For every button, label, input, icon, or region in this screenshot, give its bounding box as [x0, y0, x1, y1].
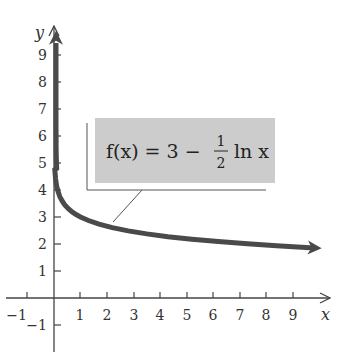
leader-line — [113, 190, 142, 222]
svg-text:8: 8 — [262, 307, 271, 323]
svg-text:−1: −1 — [26, 317, 47, 333]
formula-numerator: 1 — [217, 133, 226, 149]
svg-text:7: 7 — [38, 101, 47, 117]
svg-text:3: 3 — [130, 307, 139, 323]
function-graph: −1 1 2 3 4 5 6 7 8 9 x −1 — [0, 0, 339, 363]
svg-text:−1: −1 — [6, 307, 27, 323]
svg-text:7: 7 — [236, 307, 245, 323]
svg-text:9: 9 — [38, 47, 47, 63]
formula-annotation: f(x) = 3 − 1 2 ln x — [87, 118, 275, 222]
x-tick-labels: −1 1 2 3 4 5 6 7 8 9 — [6, 307, 297, 323]
svg-text:2: 2 — [38, 236, 47, 252]
curve-arrowhead-top — [49, 31, 63, 45]
x-axis-label: x — [321, 305, 330, 324]
svg-text:9: 9 — [289, 307, 298, 323]
x-ticks — [27, 292, 293, 298]
formula-denominator: 2 — [217, 155, 226, 171]
formula-rhs: ln x — [234, 140, 269, 162]
svg-text:2: 2 — [103, 307, 112, 323]
svg-text:3: 3 — [38, 209, 47, 225]
svg-text:6: 6 — [38, 128, 47, 144]
svg-text:1: 1 — [38, 263, 47, 279]
y-axis-label: y — [34, 23, 45, 42]
svg-text:4: 4 — [38, 182, 47, 198]
svg-text:5: 5 — [183, 307, 192, 323]
svg-text:6: 6 — [209, 307, 218, 323]
formula-lhs: f(x) = 3 − — [106, 140, 201, 162]
svg-text:4: 4 — [156, 307, 165, 323]
y-tick-labels: −1 1 2 3 4 5 6 7 8 9 — [26, 47, 47, 333]
svg-text:1: 1 — [76, 307, 85, 323]
svg-text:5: 5 — [38, 155, 47, 171]
svg-text:8: 8 — [38, 74, 47, 90]
